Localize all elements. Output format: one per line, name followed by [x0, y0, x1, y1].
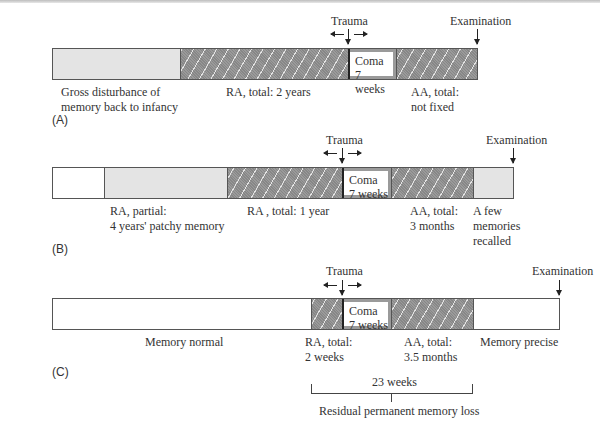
- label-aa-total: AA, total: 3.5 months: [404, 335, 457, 365]
- segment-ra-total: [311, 299, 343, 329]
- segment-aa-total: [391, 299, 473, 329]
- left-arrow-icon: [324, 285, 337, 286]
- trauma-label: Trauma: [326, 264, 363, 279]
- trauma-line: [342, 299, 344, 329]
- label-memory-normal: Memory normal: [145, 335, 223, 350]
- panel-letter-c: (C): [52, 365, 69, 379]
- examination-label: Examination: [532, 264, 593, 279]
- coma-label: Coma: [349, 304, 388, 318]
- bracket-tick: [391, 393, 392, 402]
- segment-coma: Coma7 weeks: [343, 299, 391, 329]
- segment-memory-normal: [53, 299, 311, 329]
- segment-memory-precise: [473, 299, 559, 329]
- coma-duration: 7 weeks: [349, 318, 388, 332]
- label-memory-precise: Memory precise: [480, 335, 558, 350]
- panel-c: Trauma Examination Coma7 weeks Memory no…: [0, 0, 600, 434]
- timeline-bar-c: Coma7 weeks: [52, 298, 560, 330]
- label-ra-total: RA, total: 2 weeks: [305, 335, 352, 365]
- residual-loss-caption: Residual permanent memory loss: [319, 404, 479, 419]
- right-arrow-icon: [348, 285, 361, 286]
- trauma-arrow-icon: [342, 280, 343, 295]
- examination-arrow-icon: [559, 280, 560, 295]
- residual-loss-bracket: [311, 384, 473, 394]
